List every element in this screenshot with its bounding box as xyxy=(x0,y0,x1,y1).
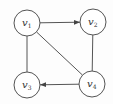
node-v1: v1 xyxy=(14,10,40,36)
node-v3: v3 xyxy=(14,72,40,98)
graph-diagram: v1v2v3v4 xyxy=(0,0,113,104)
edge-v4-v3 xyxy=(40,84,79,85)
edge-v1-v2 xyxy=(40,22,80,23)
edge-v1-v4 xyxy=(36,32,82,75)
edge-v2-v4 xyxy=(92,35,93,71)
graph-canvas: v1v2v3v4 xyxy=(0,0,113,104)
node-v4: v4 xyxy=(79,71,105,97)
node-v2: v2 xyxy=(80,9,106,35)
